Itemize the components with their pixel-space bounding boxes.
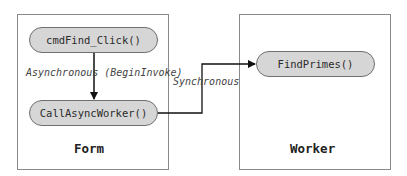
node-find-primes: FindPrimes() [256,51,375,77]
node-cmdfind-click: cmdFind_Click() [29,27,158,53]
worker-label: Worker [290,141,335,156]
node-label: cmdFind_Click() [46,34,141,46]
node-call-async-worker: CallAsyncWorker() [29,100,158,126]
node-label: CallAsyncWorker() [40,107,147,119]
node-label: FindPrimes() [278,58,354,70]
edge-label-sync: Synchronous [173,76,239,87]
edge-label-async: Asynchronous (BeginInvoke) [26,67,183,78]
form-label: Form [74,141,104,156]
